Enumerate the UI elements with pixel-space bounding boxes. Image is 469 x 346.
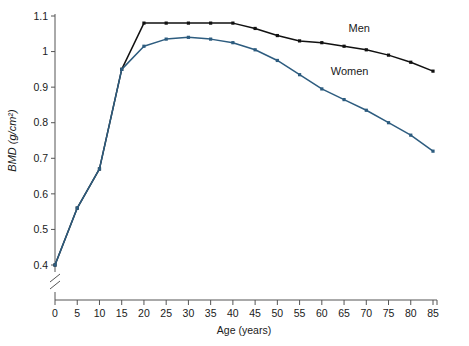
y-tick-label-0.6: 0.6 [33,188,48,200]
x-tick-label-35: 35 [205,307,217,319]
data-point-women-60 [320,87,323,90]
x-tick-label-60: 60 [316,307,328,319]
data-point-men-85 [431,70,434,73]
y-tick-label-1: 1 [42,45,48,57]
data-point-women-40 [231,41,234,44]
x-tick-label-85: 85 [427,307,439,319]
x-tick-label-40: 40 [227,307,239,319]
x-tick-label-80: 80 [405,307,417,319]
data-point-women-80 [409,134,412,137]
y-axis-title: BMD (g/cm²) [6,109,18,172]
y-tick-label-0.7: 0.7 [33,152,48,164]
y-axis-break-slash-upper [50,274,60,282]
series-label-women: Women [331,65,369,77]
data-point-women-35 [209,38,212,41]
data-point-men-40 [231,22,234,25]
data-point-men-45 [254,27,257,30]
y-tick-label-0.4: 0.4 [33,259,48,271]
data-point-men-50 [276,34,279,37]
data-point-women-10 [98,167,101,170]
x-tick-label-55: 55 [294,307,306,319]
x-tick-label-45: 45 [249,307,261,319]
data-point-men-20 [142,22,145,25]
data-point-women-0 [53,263,56,266]
data-point-men-55 [298,39,301,42]
data-point-women-65 [342,98,345,101]
series-line-women [55,37,433,265]
x-tick-label-30: 30 [183,307,195,319]
data-point-men-65 [342,45,345,48]
data-point-men-30 [187,22,190,25]
y-tick-label-1.1: 1.1 [33,10,48,22]
series-line-men [55,23,433,265]
data-point-women-50 [276,59,279,62]
data-point-women-70 [365,109,368,112]
x-axis-title: Age (years) [217,324,271,336]
x-tick-label-20: 20 [138,307,150,319]
y-tick-label-0.5: 0.5 [33,223,48,235]
data-point-women-20 [142,45,145,48]
data-point-women-25 [165,38,168,41]
x-tick-label-50: 50 [272,307,284,319]
x-tick-label-5: 5 [74,307,80,319]
x-tick-label-25: 25 [160,307,172,319]
data-point-men-25 [165,22,168,25]
x-tick-label-75: 75 [383,307,395,319]
y-axis-break-slash-lower [50,281,60,289]
data-point-women-75 [387,121,390,124]
data-point-men-60 [320,41,323,44]
data-point-women-15 [120,68,123,71]
data-point-men-35 [209,22,212,25]
y-tick-label-0.8: 0.8 [33,116,48,128]
bmd-age-line-chart: 0.40.50.60.70.80.911.1BMD (g/cm²)0510152… [0,0,469,346]
data-point-women-55 [298,73,301,76]
data-point-women-30 [187,36,190,39]
data-point-men-80 [409,61,412,64]
data-point-women-45 [254,48,257,51]
series-label-men: Men [349,22,370,34]
x-tick-label-15: 15 [116,307,128,319]
data-point-men-75 [387,54,390,57]
data-point-women-5 [76,206,79,209]
x-tick-label-0: 0 [52,307,58,319]
x-tick-label-65: 65 [338,307,350,319]
x-tick-label-10: 10 [94,307,106,319]
x-tick-label-70: 70 [360,307,372,319]
data-point-women-85 [431,150,434,153]
y-tick-label-0.9: 0.9 [33,81,48,93]
data-point-men-70 [365,48,368,51]
